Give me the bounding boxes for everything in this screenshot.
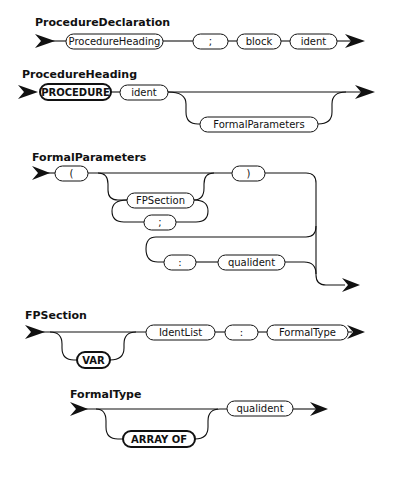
entry-arrow-icon: [18, 85, 38, 99]
nonterminal-label: FormalParameters: [213, 119, 304, 130]
nonterminal-label: ProcedureHeading: [69, 36, 161, 47]
diagram-formal-parameters: FormalParameters ( FPSection ; ) : quali…: [32, 151, 360, 292]
terminal-label: :: [178, 257, 181, 268]
diagram-fp-section: FPSection VAR IdentList : FormalType: [25, 309, 365, 368]
nonterminal-label: ident: [131, 87, 157, 98]
nonterminal-label: FPSection: [136, 195, 185, 206]
keyword-label: ARRAY OF: [131, 434, 187, 445]
diagram-procedure-declaration: ProcedureDeclaration ProcedureHeading ; …: [35, 16, 365, 49]
diagram-title: FormalType: [70, 388, 141, 401]
diagram-title: FPSection: [25, 309, 87, 322]
terminal-label: :: [240, 327, 243, 338]
diagram-title: FormalParameters: [32, 151, 147, 164]
diagram-formal-type: FormalType ARRAY OF qualident: [70, 388, 328, 447]
nonterminal-label: FormalType: [279, 327, 336, 338]
keyword-label: PROCEDURE: [41, 87, 110, 98]
diagram-procedure-heading: ProcedureHeading PROCEDURE ident FormalP…: [18, 68, 375, 132]
terminal-label: ): [247, 168, 251, 179]
terminal-label: ;: [209, 36, 212, 47]
nonterminal-label: IdentList: [159, 327, 202, 338]
syntax-diagrams: ProcedureDeclaration ProcedureHeading ; …: [0, 0, 393, 478]
nonterminal-label: block: [246, 36, 273, 47]
nonterminal-label: ident: [301, 36, 327, 47]
keyword-label: VAR: [82, 355, 105, 366]
nonterminal-label: qualident: [236, 403, 283, 414]
terminal-label: ;: [158, 217, 161, 228]
terminal-label: (: [70, 168, 74, 179]
diagram-title: ProcedureDeclaration: [35, 16, 170, 29]
nonterminal-label: qualident: [228, 257, 275, 268]
diagram-title: ProcedureHeading: [22, 68, 137, 81]
